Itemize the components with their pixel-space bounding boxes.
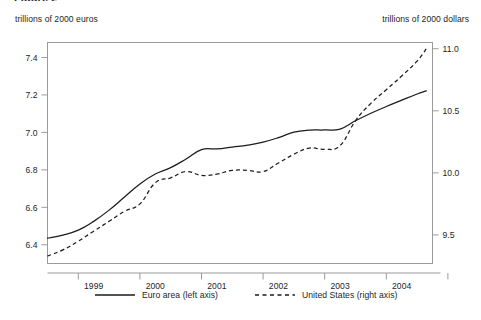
left-tick-label: 7.4 [25, 53, 37, 63]
legend-label: Euro area (left axis) [142, 290, 218, 300]
right-tick-label: 9.5 [443, 230, 455, 240]
right-axis-caption: trillions of 2000 dollars [382, 14, 469, 24]
right-tick-label: 11.0 [443, 44, 459, 54]
x-tick-label: 2001 [207, 281, 226, 291]
data-series-group [48, 49, 427, 256]
left-tick-label: 6.4 [25, 240, 37, 250]
figure-title-cutoff: Figure 2 [14, 0, 58, 1]
left-tick-label: 6.6 [25, 203, 37, 213]
left-axis-ticks: 6.46.66.87.07.27.4 [25, 53, 47, 250]
chart-legend: Euro area (left axis)United States (righ… [95, 290, 397, 300]
x-tick-label: 1999 [84, 281, 103, 291]
plot-frame [48, 43, 433, 264]
left-tick-label: 6.8 [25, 165, 37, 175]
x-tick-label: 2000 [146, 281, 165, 291]
x-axis-ticks: 199920002001200220032004 [48, 273, 448, 291]
right-axis-ticks: 9.510.010.511.0 [433, 44, 460, 240]
left-tick-label: 7.2 [25, 90, 37, 100]
x-tick-label: 2003 [330, 281, 349, 291]
figure-container: Figure 2 trillions of 2000 euros trillio… [0, 0, 481, 320]
left-axis-caption: trillions of 2000 euros [15, 14, 98, 24]
x-tick-label: 2004 [392, 281, 411, 291]
right-tick-label: 10.5 [443, 106, 460, 116]
legend-label: United States (right axis) [302, 290, 397, 300]
line-chart: 6.46.66.87.07.27.4 9.510.010.511.0 19992… [0, 0, 481, 320]
series-line-euro-area [48, 91, 427, 238]
right-tick-label: 10.0 [443, 168, 460, 178]
x-tick-label: 2002 [269, 281, 288, 291]
series-line-united-states [48, 49, 427, 256]
left-tick-label: 7.0 [25, 128, 37, 138]
